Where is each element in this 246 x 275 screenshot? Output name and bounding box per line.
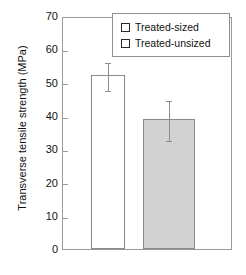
y-tick-mark [63,51,68,52]
legend-item-treated-unsized: Treated-unsized [121,35,223,51]
error-cap-2-upper [166,101,172,102]
y-tick-label: 20 [32,178,58,189]
y-tick-label: 70 [32,11,58,22]
legend-swatch-icon [121,23,130,32]
y-tick-mark [63,184,68,185]
error-bar-1 [108,63,109,91]
y-tick-label: 50 [32,78,58,89]
legend-label: Treated-sized [135,22,199,33]
error-cap-1-lower [105,91,111,92]
legend: Treated-sized Treated-unsized [112,13,230,57]
error-cap-2-lower [166,141,172,142]
y-tick-mark [63,118,68,119]
error-cap-1-upper [105,63,111,64]
y-tick-label: 30 [32,144,58,155]
y-tick-mark [63,151,68,152]
y-axis-title: Transverse tensile strength (MPa) [16,18,28,238]
y-tick-mark [63,84,68,85]
y-tick-label: 0 [32,244,58,255]
legend-swatch-icon [121,39,130,48]
legend-item-treated-sized: Treated-sized [121,19,223,35]
y-tick-mark [63,218,68,219]
legend-label: Treated-unsized [135,38,210,49]
y-axis-tick-labels: 70 60 50 40 30 20 10 0 [30,0,58,275]
chart-figure: Transverse tensile strength (MPa) 70 60 … [0,0,246,275]
bar-1 [91,75,125,249]
y-tick-label: 60 [32,44,58,55]
error-bar-2 [169,101,170,141]
y-tick-label: 10 [32,211,58,222]
y-tick-label: 40 [32,111,58,122]
